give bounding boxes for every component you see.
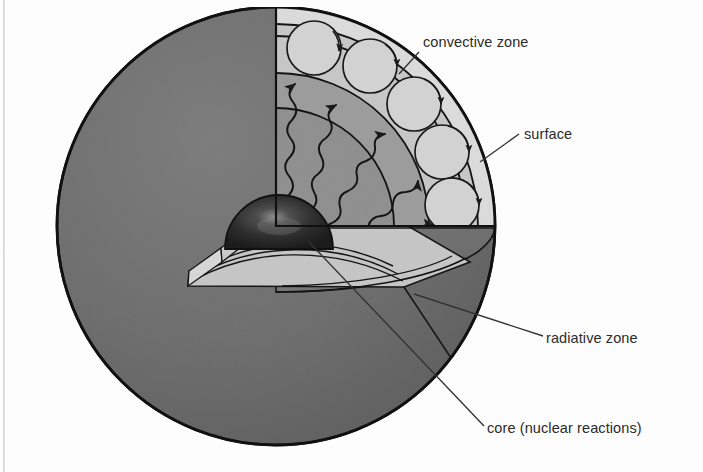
label-surface: surface [524, 126, 572, 142]
leader-surface [480, 134, 519, 162]
label-core-nuclear-reactions: core (nuclear reactions) [487, 420, 642, 436]
outer-cut-plane [276, 228, 500, 449]
label-convective-zone: convective zone [423, 34, 528, 50]
convection-cell [343, 39, 397, 93]
convection-cell [287, 21, 341, 75]
convection-cell [415, 125, 469, 179]
convection-cell [387, 77, 441, 131]
sun-structure-diagram: convective zone surface radiative zone c… [0, 0, 703, 472]
label-radiative-zone: radiative zone [546, 330, 638, 346]
scan-top-crop [0, 0, 703, 7]
scan-edge-artifact [3, 0, 5, 472]
figure-page: convective zone surface radiative zone c… [0, 0, 703, 472]
convection-cell [425, 178, 479, 232]
